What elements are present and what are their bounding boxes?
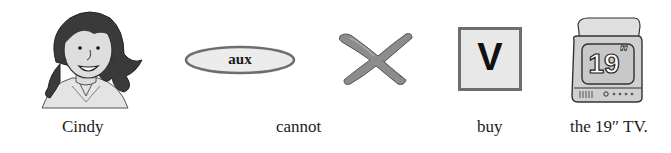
- object-label: the 19″ TV.: [570, 117, 648, 137]
- cross-x-icon: [338, 30, 414, 86]
- verb-badge-label: V: [458, 27, 522, 91]
- verb-label: buy: [477, 117, 503, 137]
- tv-screen-inch-mark: ″: [620, 44, 628, 62]
- cindy-portrait-icon: [20, 4, 150, 109]
- tv-screen-number: 19: [586, 44, 622, 84]
- verb-square-icon: V: [458, 27, 522, 91]
- television-icon: 19 ″: [568, 14, 644, 104]
- aux-oval-icon: aux: [184, 45, 296, 75]
- subject-label: Cindy: [62, 117, 104, 137]
- aux-label: cannot: [276, 117, 321, 137]
- aux-badge-label: aux: [184, 45, 296, 75]
